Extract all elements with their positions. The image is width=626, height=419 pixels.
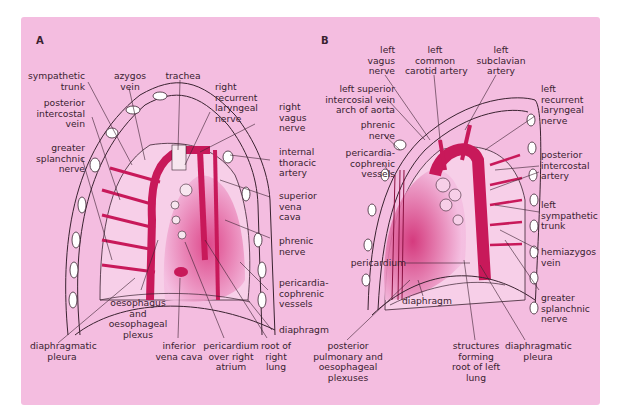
label-left-common-carotid-artery: left common carotid artery bbox=[405, 45, 465, 77]
label-pericardiacophrenic-vessels-b: pericardia- cophrenic vessels bbox=[346, 148, 395, 180]
label-right-recurrent-laryngeal-nerve: right recurrent laryngeal nerve bbox=[215, 82, 258, 124]
panel-a-letter: A bbox=[36, 35, 44, 46]
label-left-superior-intercostal-vein: left superior intercosial vein arch of a… bbox=[325, 84, 395, 116]
label-diaphragm-a: diaphragm bbox=[279, 325, 329, 336]
label-diaphragmatic-pleura-b: diaphragmatic pleura bbox=[505, 341, 571, 362]
label-left-sympathetic-trunk: left sympathetic trunk bbox=[541, 200, 598, 232]
label-left-subclavian-artery: left subclavian artery bbox=[476, 45, 526, 77]
label-trachea: trachea bbox=[160, 71, 206, 82]
label-oesophagus-plexus: oesophagus and oesophageal plexus bbox=[108, 298, 168, 340]
label-superior-vena-cava: superior vena cava bbox=[279, 191, 317, 223]
label-posterior-pulmonary-plexuses: posterior pulmonary and oesophageal plex… bbox=[313, 341, 383, 383]
label-pericardium-b: pericardium bbox=[351, 258, 406, 269]
label-azygos-vein: azygos vein bbox=[106, 71, 154, 92]
label-greater-splanchnic-nerve: greater splanchnic nerve bbox=[36, 143, 85, 175]
label-inferior-vena-cava: inferior vena cava bbox=[154, 341, 204, 362]
label-right-vagus-nerve: right vagus nerve bbox=[279, 102, 307, 134]
label-posterior-intercostal-vein: posterior intercostal vein bbox=[37, 98, 85, 130]
label-greater-splanchnic-nerve-b: greater splanchnic nerve bbox=[541, 293, 590, 325]
label-diaphragm-b: diaphragm bbox=[402, 296, 452, 307]
label-hemiazygos-vein: hemiazygos vein bbox=[541, 247, 596, 268]
label-internal-thoracic-artery: internal thoracic artery bbox=[279, 147, 316, 179]
label-phrenic-nerve-b: phrenic nerve bbox=[361, 120, 395, 141]
label-diaphragmatic-pleura-a: diaphragmatic pleura bbox=[30, 341, 94, 362]
label-phrenic-nerve: phrenic nerve bbox=[279, 236, 313, 257]
label-pericardiacophrenic-vessels-a: pericardia- cophrenic vessels bbox=[279, 278, 328, 310]
label-structures-root-left-lung: structures forming root of left lung bbox=[450, 341, 502, 383]
label-posterior-intercostal-artery: posterior intercostal artery bbox=[541, 150, 589, 182]
label-left-recurrent-laryngeal-nerve: left recurrent laryngeal nerve bbox=[541, 84, 584, 126]
label-root-of-right-lung: root of right lung bbox=[258, 341, 294, 373]
panel-b-letter: B bbox=[321, 35, 329, 46]
label-pericardium-over-right-atrium: pericardium over right atrium bbox=[201, 341, 261, 373]
label-sympathetic-trunk: sympathetic trunk bbox=[28, 71, 85, 92]
label-left-vagus-nerve: left vagus nerve bbox=[367, 45, 395, 77]
